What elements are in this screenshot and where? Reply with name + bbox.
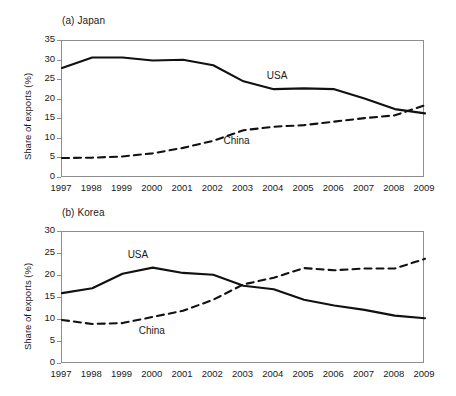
plot-area-japan — [61, 40, 424, 177]
x-tick-label: 2007 — [348, 182, 380, 193]
x-tick-label: 2008 — [378, 182, 410, 193]
y-tick-label: 0 — [29, 170, 55, 181]
x-tick-label: 1998 — [75, 368, 107, 379]
plot-area-korea — [61, 231, 424, 363]
y-tick-mark — [57, 177, 61, 178]
y-tick-mark — [57, 138, 61, 139]
y-tick-mark — [57, 275, 61, 276]
figure-export-shares: (a) Japan Share of exports (%) 051015202… — [0, 0, 456, 396]
line-usa-korea — [62, 268, 425, 319]
panel-title-japan: (a) Japan — [62, 15, 105, 26]
y-tick-mark — [57, 99, 61, 100]
series-label-china-korea: China — [139, 325, 165, 336]
x-tick-label: 2000 — [136, 368, 168, 379]
y-tick-label: 10 — [29, 312, 55, 323]
x-tick-label: 1998 — [75, 182, 107, 193]
x-tick-label: 1999 — [106, 182, 138, 193]
y-tick-label: 20 — [29, 92, 55, 103]
y-tick-label: 30 — [29, 224, 55, 235]
y-tick-label: 0 — [29, 356, 55, 367]
x-tick-label: 1997 — [45, 182, 77, 193]
y-tick-mark — [57, 60, 61, 61]
x-tick-label: 2001 — [166, 368, 198, 379]
y-tick-label: 30 — [29, 53, 55, 64]
y-tick-mark — [57, 231, 61, 232]
chart-panel-japan: (a) Japan Share of exports (%) 051015202… — [0, 0, 456, 198]
y-tick-label: 25 — [29, 246, 55, 257]
x-tick-label: 2007 — [348, 368, 380, 379]
x-tick-label: 2005 — [287, 368, 319, 379]
y-tick-label: 20 — [29, 268, 55, 279]
y-tick-mark — [57, 341, 61, 342]
y-tick-label: 10 — [29, 131, 55, 142]
x-tick-label: 2009 — [408, 182, 440, 193]
x-tick-label: 2004 — [257, 368, 289, 379]
x-tick-label: 1997 — [45, 368, 77, 379]
x-tick-label: 2003 — [227, 368, 259, 379]
x-tick-label: 2002 — [196, 368, 228, 379]
y-tick-mark — [57, 40, 61, 41]
series-label-usa-korea: USA — [128, 249, 149, 260]
x-tick-label: 2006 — [317, 368, 349, 379]
y-tick-mark — [57, 157, 61, 158]
line-usa-japan — [62, 57, 425, 113]
y-tick-label: 35 — [29, 33, 55, 44]
y-tick-mark — [57, 363, 61, 364]
y-tick-label: 15 — [29, 290, 55, 301]
x-tick-label: 2002 — [196, 182, 228, 193]
y-tick-mark — [57, 118, 61, 119]
line-china-korea — [62, 259, 425, 324]
x-tick-label: 2003 — [227, 182, 259, 193]
x-tick-label: 2005 — [287, 182, 319, 193]
y-tick-label: 15 — [29, 111, 55, 122]
x-tick-label: 2006 — [317, 182, 349, 193]
x-tick-label: 2004 — [257, 182, 289, 193]
series-canvas-japan — [62, 41, 425, 178]
x-tick-label: 2009 — [408, 368, 440, 379]
y-tick-label: 5 — [29, 334, 55, 345]
series-label-usa-japan: USA — [267, 70, 288, 81]
line-china-japan — [62, 105, 425, 158]
x-tick-label: 2000 — [136, 182, 168, 193]
x-tick-label: 1999 — [106, 368, 138, 379]
y-tick-label: 5 — [29, 150, 55, 161]
y-tick-label: 25 — [29, 72, 55, 83]
x-tick-label: 2001 — [166, 182, 198, 193]
y-tick-mark — [57, 319, 61, 320]
chart-panel-korea: (b) Korea Share of exports (%) 051015202… — [0, 198, 456, 396]
y-tick-mark — [57, 79, 61, 80]
series-canvas-korea — [62, 232, 425, 364]
series-label-china-japan: China — [223, 135, 249, 146]
x-tick-label: 2008 — [378, 368, 410, 379]
panel-title-korea: (b) Korea — [62, 207, 105, 218]
y-tick-mark — [57, 297, 61, 298]
y-tick-mark — [57, 253, 61, 254]
